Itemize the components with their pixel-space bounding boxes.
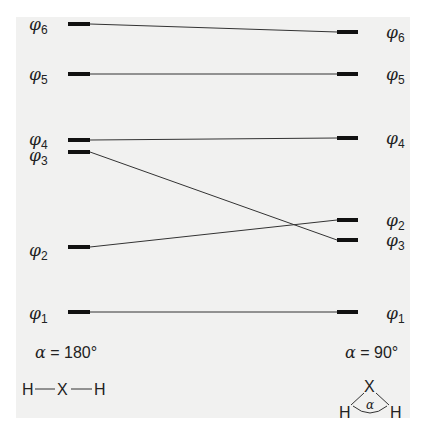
correlation-line-phi2 xyxy=(90,220,337,247)
left-energy-levels xyxy=(68,24,90,312)
orbital-label-right-phi4: φ4 xyxy=(386,128,405,151)
correlation-line-phi4 xyxy=(90,138,337,140)
angle-label-linear: α = 180° xyxy=(35,343,97,362)
correlation-line-phi3 xyxy=(90,152,337,240)
linear-molecule: H X H xyxy=(22,381,106,398)
right-orbital-labels: φ6 φ5 φ4 φ2 φ3 φ1 xyxy=(386,22,405,326)
atom-h-right: H xyxy=(390,404,402,421)
orbital-label-right-phi1: φ1 xyxy=(386,303,405,326)
orbital-label-left-phi1: φ1 xyxy=(29,303,48,326)
orbital-label-right-phi6: φ6 xyxy=(386,22,405,45)
correlation-lines xyxy=(90,24,337,312)
bond-line xyxy=(351,393,364,405)
walsh-diagram: φ6 φ5 φ4 φ3 φ2 φ1 φ6 φ5 φ4 φ2 φ3 φ1 α = … xyxy=(0,0,426,435)
angle-symbol: α xyxy=(366,398,374,412)
atom-h-left: H xyxy=(22,381,34,398)
atom-x: X xyxy=(57,381,68,398)
atom-h-left: H xyxy=(339,404,351,421)
left-orbital-labels: φ6 φ5 φ4 φ3 φ2 φ1 xyxy=(29,14,48,326)
orbital-label-left-phi6: φ6 xyxy=(29,14,48,37)
atom-h-right: H xyxy=(94,381,106,398)
angle-label-bent: α = 90° xyxy=(345,343,398,362)
orbital-label-left-phi2: φ2 xyxy=(29,240,48,263)
correlation-line-phi6 xyxy=(90,24,337,32)
orbital-label-right-phi3: φ3 xyxy=(386,230,405,253)
bond-line xyxy=(376,393,389,405)
orbital-label-right-phi5: φ5 xyxy=(386,64,405,87)
atom-x: X xyxy=(364,378,375,395)
orbital-label-left-phi5: φ5 xyxy=(29,64,48,87)
right-energy-levels xyxy=(337,32,358,312)
bent-molecule: X H H α xyxy=(339,378,402,421)
